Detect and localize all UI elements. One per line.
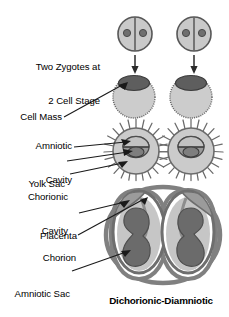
bilaminar-embryo-left xyxy=(104,119,168,181)
label-two-zygotes-line1: Two Zygotes at xyxy=(4,61,100,72)
blastocyst-right xyxy=(170,76,212,119)
label-chorionic-cavity-line1: Chorionic xyxy=(4,191,68,202)
diagram-canvas: Two Zygotes at 2 Cell Stage Cell Mass Am… xyxy=(0,0,229,317)
label-amniotic-cavity-line1: Amniotic xyxy=(4,140,72,151)
nucleus xyxy=(139,29,146,36)
yolk-sac xyxy=(183,147,199,157)
arrow-down-right xyxy=(190,55,197,74)
arrow-down-left xyxy=(131,55,138,74)
inner-cell-mass xyxy=(176,76,207,91)
label-amniotic-sac-line1: Amniotic Sac xyxy=(2,288,70,299)
nucleus xyxy=(182,29,189,36)
blastocyst-left xyxy=(113,76,155,119)
zygote-right xyxy=(177,17,211,51)
amniotic-sac-right xyxy=(162,191,214,273)
nucleus xyxy=(123,29,130,36)
label-amniotic-sac: Amniotic Sac xyxy=(2,265,70,317)
zygote-left xyxy=(118,17,152,51)
bilaminar-disc-right xyxy=(178,137,204,158)
bilaminar-embryo-right xyxy=(159,119,223,181)
nucleus xyxy=(198,29,205,36)
diagram-title: Dichorionic-Diamniotic xyxy=(95,295,227,306)
label-chorion-line1: Chorion xyxy=(4,252,76,263)
